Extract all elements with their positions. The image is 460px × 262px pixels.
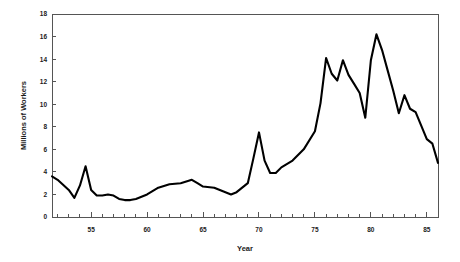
x-tick-label: 60 [143, 226, 151, 233]
line-chart: 024681012141618 55606570758085 Year Mill… [0, 0, 460, 262]
y-tick-label: 10 [40, 101, 48, 108]
y-tick-label: 0 [43, 213, 47, 220]
x-axis-title: Year [237, 244, 253, 253]
x-tick-label: 70 [255, 226, 263, 233]
data-series-line [52, 34, 438, 200]
x-tick-label: 65 [199, 226, 207, 233]
y-tick-label: 4 [43, 168, 47, 175]
y-tick-label: 14 [40, 56, 48, 63]
y-tick-label: 18 [40, 10, 48, 17]
y-tick-label: 12 [40, 78, 48, 85]
x-tick-label: 85 [423, 226, 431, 233]
chart-container: 024681012141618 55606570758085 Year Mill… [0, 0, 460, 262]
x-axis-major-ticks [91, 212, 427, 217]
y-axis-tick-labels: 024681012141618 [40, 10, 48, 220]
x-tick-label: 80 [367, 226, 375, 233]
y-axis-title: Millions of Workers [19, 81, 28, 150]
x-tick-label: 55 [88, 226, 96, 233]
x-axis-tick-labels: 55606570758085 [88, 226, 431, 233]
y-tick-label: 2 [43, 191, 47, 198]
y-tick-label: 8 [43, 123, 47, 130]
y-axis-ticks [52, 14, 56, 217]
y-tick-label: 6 [43, 146, 47, 153]
x-tick-label: 75 [311, 226, 319, 233]
y-tick-label: 16 [40, 33, 48, 40]
